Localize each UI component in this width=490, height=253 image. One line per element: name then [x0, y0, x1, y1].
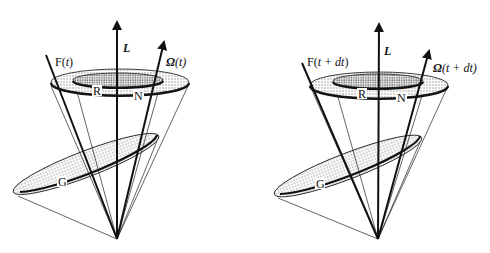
f-label: F(t + dt) [307, 55, 348, 69]
omega-label: Ω(t + dt) [433, 61, 477, 75]
right-panel: L F(t + dt) Ω(t + dt) R N G [270, 24, 477, 239]
body-cone-g [270, 126, 427, 239]
n-label: N [134, 89, 143, 103]
left-panel: L F(t) Ω(t) R N G [9, 22, 189, 239]
l-vector [378, 24, 379, 239]
g-label: G [316, 177, 325, 191]
g-ellipse [9, 124, 164, 204]
f-label: F(t) [55, 55, 73, 69]
r-label: R [93, 84, 101, 98]
l-label: L [122, 41, 130, 55]
precession-diagram: L F(t) Ω(t) R N G [0, 0, 490, 253]
r-label: R [358, 87, 366, 101]
n-label: N [397, 91, 406, 105]
omega-label: Ω(t) [166, 55, 186, 69]
l-label: L [383, 44, 391, 58]
g-label: G [58, 175, 67, 189]
g-ellipse [270, 126, 427, 207]
